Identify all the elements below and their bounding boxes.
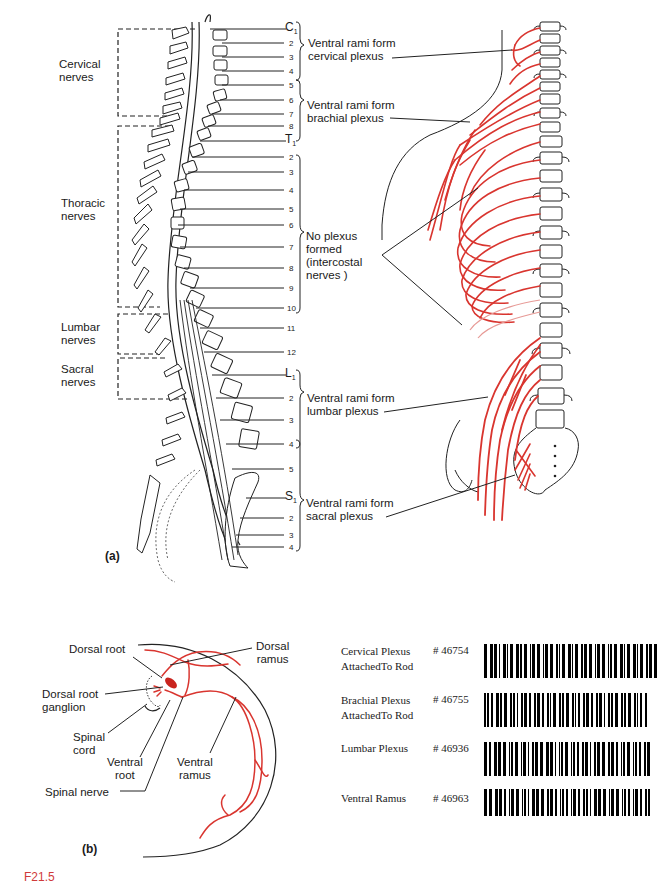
barcode-bar [635,742,637,776]
nerve-label-t9: 9 [289,284,293,293]
barcode-bar [633,789,634,816]
plexus-label-sacral: Ventral rami formsacral plexus [306,497,394,523]
barcode-bar [532,789,535,816]
barcode-bar [604,693,605,727]
nerve-label-t11: 11 [287,324,295,333]
barcode-bar [510,644,513,678]
barcode-bar [573,742,575,776]
barcode-bar [582,742,584,776]
barcode-bar [571,742,572,776]
barcode-bar [572,693,574,727]
barcode-bar [550,693,551,727]
barcode-bar [627,742,630,776]
barcode-bar [591,693,593,727]
barcode-46963[interactable] [484,789,652,816]
barcode-bar [647,742,650,776]
barcode-bar [590,742,591,776]
nerve-label-t12: 12 [287,348,296,357]
barcode-bar [559,742,560,776]
nerve-label-l2: 2 [289,394,293,403]
barcode-bar [484,742,487,776]
barcode-bar [524,693,527,727]
barcode-bar [620,644,623,678]
barcode-bar [484,693,486,727]
barcode-bar [622,789,623,816]
barcode-bar [578,693,580,727]
barcode-bar [562,693,564,727]
barcode-bar [550,644,553,678]
barcode-bar [571,789,572,816]
nerve-label-s4: 4 [289,543,293,552]
barcode-bar [516,644,519,678]
barcode-bar [566,693,569,727]
label-dorsal-root-ganglion: Dorsal rootganglion [42,688,98,714]
barcode-bar [556,644,558,678]
barcode-bar [523,742,526,776]
barcode-bar [507,644,508,678]
label-spinal-cord: Spinalcord [73,731,105,757]
barcode-bar [602,644,605,678]
barcode-bar [559,693,561,727]
barcode-bar [590,789,591,816]
barcode-bar [568,644,571,678]
nerve-label-l1: L1 [285,367,296,384]
barcode-bar [637,693,638,727]
barcode-46936[interactable] [484,742,652,776]
barcode-item-code: # 46963 [433,792,469,804]
barcode-bar [575,644,578,678]
barcode-bar [534,693,536,727]
barcode-bar [516,789,519,816]
nerve-label-t10: 10 [287,304,296,313]
barcode-bar [521,693,523,727]
barcode-bar [547,789,549,816]
barcode-bar [510,693,512,727]
barcode-bar [496,693,499,727]
region-label-thoracic: Thoracicnerves [61,197,105,223]
label-ventral-ramus: Ventralramus [177,756,213,782]
nerve-label-l5: 5 [289,465,293,474]
barcode-bar [648,789,650,816]
barcode-bar [487,693,489,727]
barcode-bar [602,742,605,776]
barcode-bar [489,789,492,816]
barcode-bar [645,789,647,816]
barcode-bar [599,693,602,727]
nerve-label-c4: 4 [289,67,293,76]
barcode-bar [596,693,598,727]
barcode-bar [499,644,500,678]
barcode-bar [649,644,652,678]
barcode-bar [611,742,614,776]
barcode-bar [586,789,588,816]
barcode-bar [578,789,580,816]
barcode-bar [484,644,487,678]
barcode-bar [521,742,522,776]
barcode-bar [532,644,535,678]
nerve-label-t7: 7 [289,243,293,252]
region-label-cervical: Cervicalnerves [59,58,101,84]
barcode-bar [522,789,523,816]
barcode-bar [490,644,493,678]
barcode-bar [616,789,619,816]
barcode-bar [577,742,579,776]
barcode-46755[interactable] [484,693,648,727]
figure-id: F21.5 [24,870,55,884]
barcode-bar [520,644,522,678]
barcode-bar [543,644,544,678]
barcode-bar [598,789,601,816]
barcode-bar [555,789,557,816]
barcode-bar [517,693,518,727]
barcode-bar [553,693,556,727]
barcode-bar [608,693,610,727]
nerve-label-t5: 5 [289,205,293,214]
barcode-bar [637,644,638,678]
barcode-bar [640,644,643,678]
barcode-bar [583,789,585,816]
label-ventral-root: Ventralroot [107,756,143,782]
barcode-bar [640,693,642,727]
barcode-bar [511,742,513,776]
barcode-bar [503,644,506,678]
nerve-label-t3: 3 [289,168,293,177]
barcode-item-name: Lumbar Plexus [341,742,408,754]
barcode-bar [513,693,515,727]
barcode-46754[interactable] [484,644,660,678]
